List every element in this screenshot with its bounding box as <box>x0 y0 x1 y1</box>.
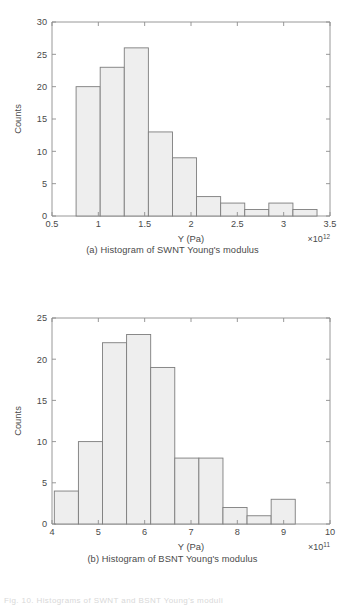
caption-a: (a) Histogram of SWNT Young's modulus <box>0 245 345 255</box>
histogram-bar <box>78 442 102 524</box>
histogram-bar <box>293 210 317 216</box>
histogram-bar <box>247 516 271 524</box>
histogram-bar <box>76 87 100 216</box>
histogram-bsnt-svg: 456789100510152025Y (Pa)Counts×1011 <box>0 292 345 554</box>
histogram-bar <box>103 343 127 524</box>
histogram-bsnt-plot: 456789100510152025Y (Pa)Counts×1011 <box>0 292 345 554</box>
histogram-bar <box>172 158 196 216</box>
x-tick-label: 5 <box>96 527 101 537</box>
histogram-bar <box>223 508 247 524</box>
y-tick-label: 25 <box>37 313 47 323</box>
histogram-bar <box>269 203 293 216</box>
histogram-bar <box>271 499 295 524</box>
x-axis-multiplier: ×1011 <box>308 541 330 552</box>
y-axis-label: Counts <box>12 406 23 436</box>
x-tick-label: 10 <box>325 527 335 537</box>
x-tick-label: 8 <box>235 527 240 537</box>
y-tick-label: 25 <box>37 50 47 60</box>
y-tick-label: 20 <box>37 82 47 92</box>
histogram-bar <box>54 491 78 524</box>
y-tick-label: 15 <box>37 114 47 124</box>
histogram-bar <box>245 210 269 216</box>
x-axis-label: Y (Pa) <box>178 541 204 552</box>
histogram-bar <box>221 203 245 216</box>
histogram-bar <box>148 132 172 216</box>
histogram-bar <box>175 458 199 524</box>
x-tick-label: 3.5 <box>324 219 337 229</box>
y-tick-label: 0 <box>42 519 47 529</box>
histogram-bar <box>197 197 221 216</box>
y-tick-label: 0 <box>42 211 47 221</box>
x-tick-label: 3 <box>281 219 286 229</box>
x-axis-multiplier: ×1012 <box>308 233 331 244</box>
figure-b: 456789100510152025Y (Pa)Counts×1011 (b) … <box>0 292 345 606</box>
figure-a: 0.511.522.533.5051015202530Y (Pa)Counts×… <box>0 0 345 295</box>
x-tick-label: 0.5 <box>46 219 59 229</box>
histogram-bar <box>199 458 223 524</box>
histogram-bar <box>127 334 151 524</box>
y-tick-label: 15 <box>37 396 47 406</box>
x-tick-label: 1 <box>96 219 101 229</box>
x-tick-label: 4 <box>49 527 54 537</box>
x-tick-label: 9 <box>281 527 286 537</box>
histogram-bar <box>100 67 124 216</box>
y-tick-label: 30 <box>37 17 47 27</box>
x-tick-label: 2 <box>188 219 193 229</box>
histogram-bar <box>124 48 148 216</box>
caption-b: (b) Histogram of BSNT Young's modulus <box>0 554 345 564</box>
x-axis-label: Y (Pa) <box>178 233 204 244</box>
x-tick-label: 7 <box>188 527 193 537</box>
y-tick-label: 20 <box>37 355 47 365</box>
histogram-bar <box>151 367 175 524</box>
partial-footer-text: Fig. 10. Histograms of SWNT and BSNT You… <box>0 596 345 606</box>
partial-footer-label: Fig. 10. Histograms of SWNT and BSNT You… <box>0 596 345 605</box>
y-axis-label: Counts <box>12 104 23 134</box>
y-tick-label: 10 <box>37 437 47 447</box>
y-tick-label: 5 <box>42 478 47 488</box>
y-tick-label: 5 <box>42 179 47 189</box>
histogram-swnt-svg: 0.511.522.533.5051015202530Y (Pa)Counts×… <box>0 0 345 245</box>
x-tick-label: 2.5 <box>231 219 244 229</box>
x-tick-label: 1.5 <box>138 219 151 229</box>
x-tick-label: 6 <box>142 527 147 537</box>
y-tick-label: 10 <box>37 147 47 157</box>
histogram-swnt-plot: 0.511.522.533.5051015202530Y (Pa)Counts×… <box>0 0 345 245</box>
